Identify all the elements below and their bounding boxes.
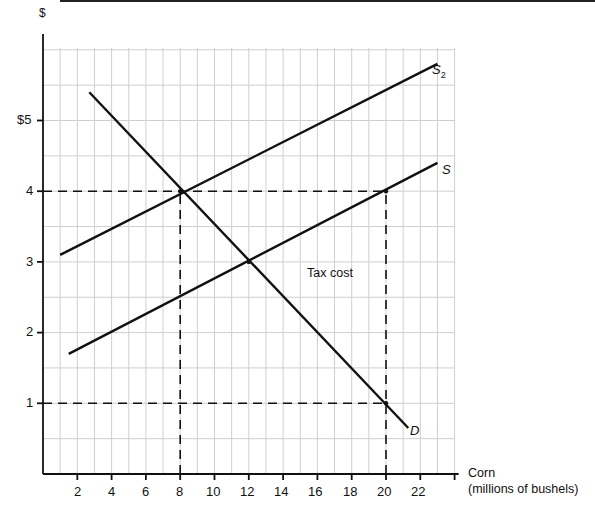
s2-label-main: S [432,62,441,77]
x-axis-label-line1: Corn [468,466,495,480]
x-tick-14: 14 [274,484,288,499]
tax-cost-label: Tax cost [307,266,353,280]
x-tick-10: 10 [206,484,220,499]
y-axis-label: $ [39,6,46,20]
x-tick-22: 22 [411,484,425,499]
x-tick-18: 18 [343,484,357,499]
x-tick-2: 2 [74,484,81,499]
y-tick-4: 4 [26,183,33,198]
chart-canvas [0,0,595,525]
x-tick-4: 4 [108,484,115,499]
d-curve-label: D [410,423,419,438]
x-tick-16: 16 [308,484,322,499]
s2-curve-label: S2 [432,62,446,80]
x-tick-12: 12 [240,484,254,499]
s2-label-sub: 2 [441,70,446,80]
x-tick-6: 6 [142,484,149,499]
x-tick-8: 8 [176,484,183,499]
y-tick-1: 1 [26,395,33,410]
y-tick-3: 3 [26,254,33,269]
y-tick-5: $5 [17,112,31,127]
x-axis-label-line2: (millions of bushels) [468,482,578,496]
s-curve-label: S [442,162,451,177]
y-tick-2: 2 [26,324,33,339]
x-tick-20: 20 [377,484,391,499]
